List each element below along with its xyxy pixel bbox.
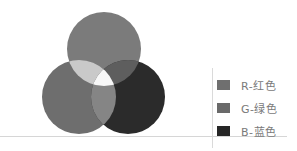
legend-label: B-蓝色 <box>241 123 277 139</box>
legend-item-red: R-红色 <box>217 73 278 96</box>
blue-swatch-icon <box>217 126 230 136</box>
red-swatch-icon <box>217 80 230 90</box>
legend-label: G-绿色 <box>241 100 278 116</box>
legend-label: R-红色 <box>241 77 276 93</box>
legend: R-红色 G-绿色 B-蓝色 <box>217 73 278 142</box>
legend-item-blue: B-蓝色 <box>217 119 278 142</box>
legend-divider <box>212 68 213 148</box>
legend-item-green: G-绿色 <box>217 96 278 119</box>
green-swatch-icon <box>217 103 230 113</box>
